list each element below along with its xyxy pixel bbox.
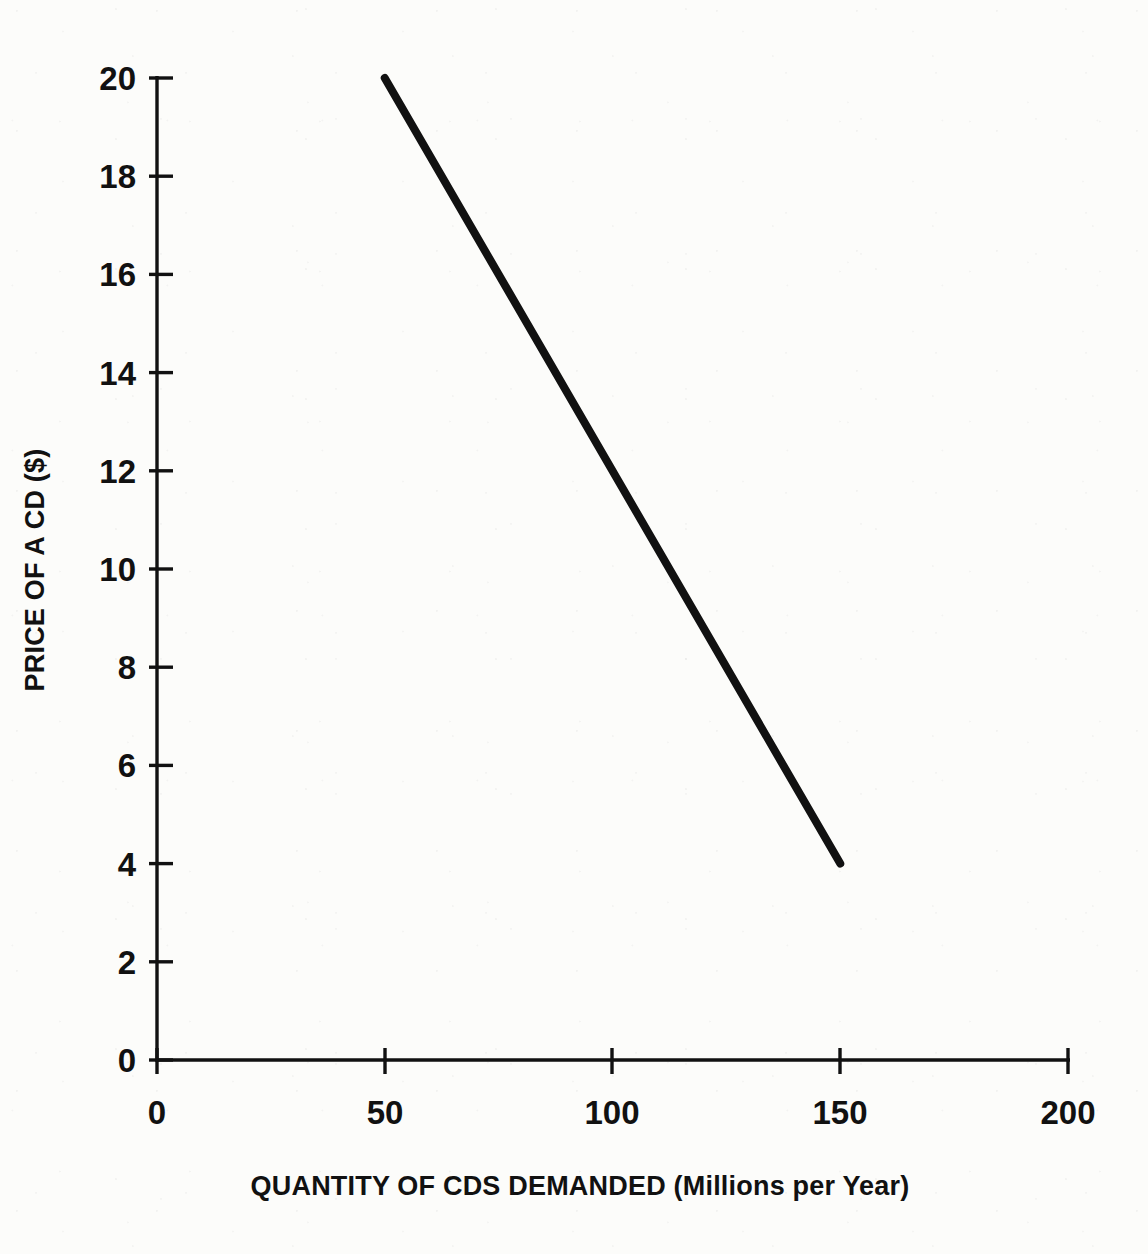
y-tick-label-8: 8 (118, 649, 136, 686)
y-tick-label-20: 20 (99, 60, 136, 97)
y-tick-label-14: 14 (99, 355, 136, 392)
y-tick-label-4: 4 (118, 846, 137, 883)
y-tick-label-0: 0 (118, 1042, 136, 1079)
y-tick-label-18: 18 (99, 158, 136, 195)
x-tick-label-50: 50 (367, 1094, 404, 1131)
y-tick-label-6: 6 (118, 747, 136, 784)
y-tick-marks (149, 78, 173, 1060)
x-tick-label-150: 150 (812, 1094, 867, 1131)
x-axis: 0 50 100 150 200 QUANTITY OF CDS DEMANDE… (148, 1048, 1096, 1201)
y-tick-label-16: 16 (99, 256, 136, 293)
y-axis: 0 2 4 6 8 10 12 14 16 18 20 PRICE OF A C… (20, 60, 173, 1079)
y-tick-label-2: 2 (118, 944, 136, 981)
x-axis-title: QUANTITY OF CDS DEMANDED (Millions per Y… (251, 1171, 910, 1201)
x-tick-label-100: 100 (584, 1094, 639, 1131)
demand-line (385, 78, 841, 864)
demand-curve-series (385, 78, 841, 864)
y-tick-label-10: 10 (99, 551, 136, 588)
x-tick-label-200: 200 (1040, 1094, 1095, 1131)
y-axis-title: PRICE OF A CD ($) (20, 449, 50, 692)
x-tick-label-0: 0 (148, 1094, 166, 1131)
chart-canvas: 0 2 4 6 8 10 12 14 16 18 20 PRICE OF A C… (0, 0, 1148, 1254)
y-tick-label-12: 12 (99, 453, 136, 490)
demand-curve-figure: 0 2 4 6 8 10 12 14 16 18 20 PRICE OF A C… (0, 0, 1148, 1254)
